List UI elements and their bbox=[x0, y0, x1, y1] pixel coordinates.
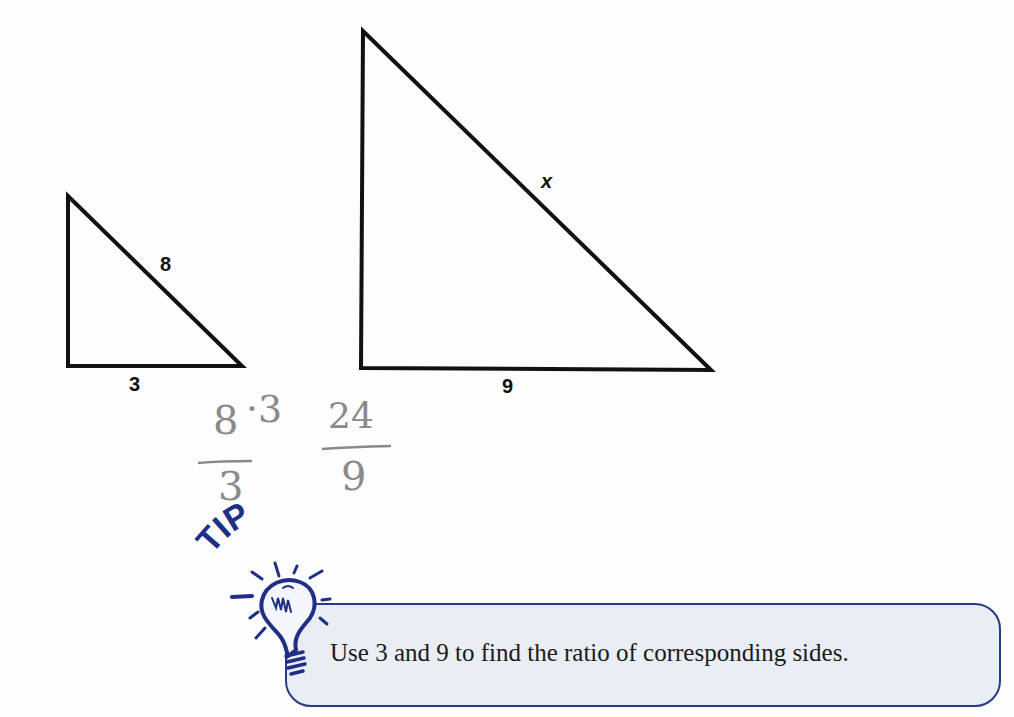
light-bulb-icon bbox=[232, 563, 330, 674]
tip-badge: TIP bbox=[0, 0, 1014, 717]
tip-badge-label: TIP bbox=[189, 494, 256, 559]
